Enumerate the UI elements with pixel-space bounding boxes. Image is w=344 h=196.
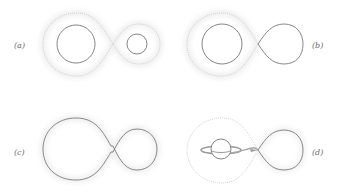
panel-c: (c)	[14, 118, 157, 180]
panel-label-d: (d)	[312, 148, 323, 157]
roche-lobe-halo	[43, 13, 160, 76]
secondary-star	[127, 34, 147, 54]
primary-star	[202, 24, 242, 64]
common-envelope-halo	[43, 118, 157, 180]
panel-label-c: (c)	[14, 148, 25, 157]
panel-label-a: (a)	[14, 41, 25, 50]
panel-b: (b)	[187, 13, 323, 76]
secondary-star-filling-lobe	[258, 24, 303, 64]
panel-d: (d)	[187, 118, 323, 183]
roche-lobe-halo	[187, 13, 258, 76]
secondary-halo	[258, 130, 303, 170]
accreting-star	[211, 139, 231, 159]
primary-star	[57, 25, 95, 63]
panel-a: (a)	[14, 13, 160, 76]
roche-lobe-diagram: (a) (b) (c) (d)	[0, 0, 344, 196]
panel-label-b: (b)	[312, 41, 323, 50]
